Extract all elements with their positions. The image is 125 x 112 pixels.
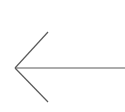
canvas-background [0,0,125,112]
arrow-canvas [0,0,125,112]
arrow-graphic [0,0,125,112]
